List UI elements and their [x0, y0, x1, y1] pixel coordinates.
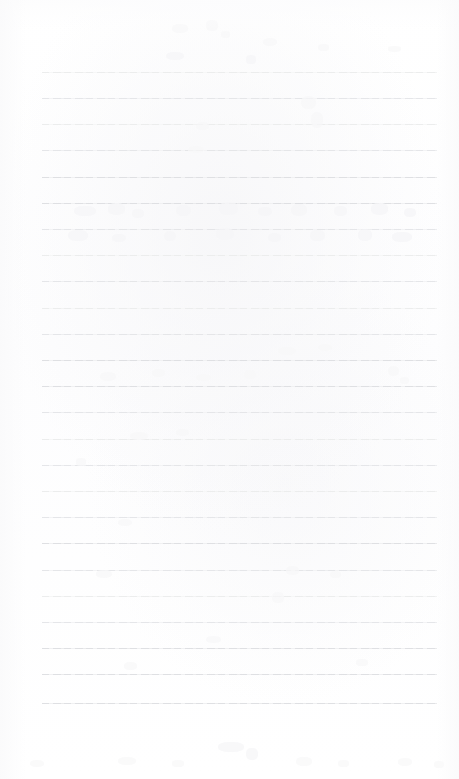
rule-line [42, 517, 437, 518]
rule-line [42, 703, 437, 704]
rule-line [42, 622, 437, 623]
rule-line [42, 648, 437, 649]
rule-line [42, 98, 437, 99]
rule-line [42, 255, 437, 256]
rule-line [42, 360, 437, 361]
rule-line [42, 281, 437, 282]
rule-line [42, 674, 437, 675]
rule-line [42, 334, 437, 335]
rule-line [42, 491, 437, 492]
rule-line [42, 203, 437, 204]
rule-line [42, 308, 437, 309]
scanned-page: Blank Lined Paper Scan [0, 0, 459, 779]
rule-line [42, 412, 437, 413]
rule-line [42, 177, 437, 178]
rule-line [42, 72, 437, 73]
rule-line [42, 386, 437, 387]
rule-line [42, 543, 437, 544]
rule-line [42, 439, 437, 440]
rule-line [42, 124, 437, 125]
ruled-lines-group [0, 0, 459, 779]
rule-line [42, 150, 437, 151]
rule-line [42, 465, 437, 466]
rule-line [42, 229, 437, 230]
rule-line [42, 596, 437, 597]
rule-line [42, 570, 437, 571]
